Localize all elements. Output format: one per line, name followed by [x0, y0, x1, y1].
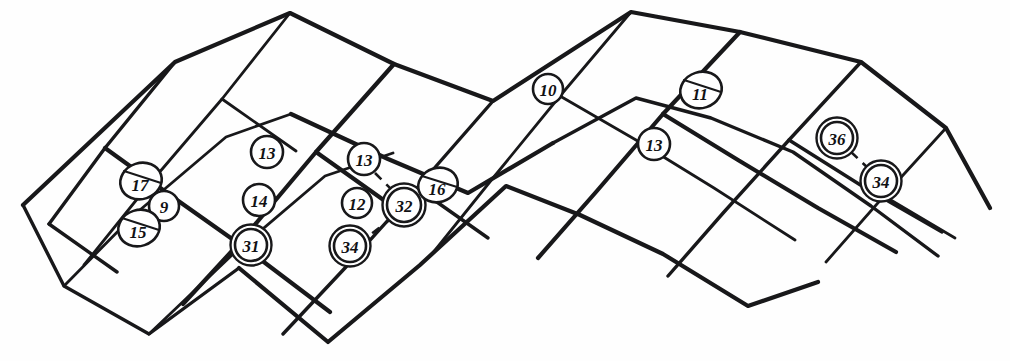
- node-marker-34-15[interactable]: 34: [861, 161, 902, 202]
- mesh-line: [884, 196, 955, 238]
- node-marker-13-3[interactable]: 13: [251, 136, 283, 168]
- node-marker-13-13[interactable]: 13: [638, 128, 670, 160]
- node-label: 14: [251, 192, 268, 211]
- dashed-link-36-34: [851, 152, 868, 168]
- node-label: 31: [242, 237, 260, 256]
- node-label: 32: [395, 197, 414, 216]
- node-label: 9: [160, 198, 169, 217]
- node-label: 17: [132, 176, 151, 195]
- mesh-line: [23, 12, 990, 208]
- node-label: 10: [540, 81, 558, 100]
- mesh-grid-lines: [23, 12, 990, 342]
- node-label: 13: [646, 136, 664, 155]
- node-label: 34: [872, 173, 890, 192]
- node-marker-36-14[interactable]: 36: [817, 118, 858, 159]
- mesh-line: [239, 186, 818, 342]
- node-markers: 1791513143113123432161011133634: [113, 66, 901, 266]
- mesh-line: [560, 96, 795, 240]
- node-label: 12: [349, 195, 367, 214]
- node-label: 16: [429, 180, 447, 199]
- node-marker-12-7[interactable]: 12: [342, 188, 372, 218]
- node-marker-13-6[interactable]: 13: [348, 143, 380, 175]
- node-label: 34: [341, 238, 359, 257]
- node-marker-14-4[interactable]: 14: [243, 184, 275, 216]
- mesh-figure: 1791513143113123432161011133634 Warped q…: [0, 0, 1010, 361]
- node-label: 13: [259, 144, 277, 163]
- node-marker-10-11[interactable]: 10: [533, 74, 563, 104]
- node-label: 15: [130, 223, 148, 242]
- node-label: 36: [828, 130, 847, 149]
- node-label: 13: [356, 151, 374, 170]
- node-label: 11: [692, 85, 708, 104]
- node-marker-31-5[interactable]: 31: [231, 225, 272, 266]
- node-marker-11-12[interactable]: 11: [675, 66, 726, 113]
- node-marker-34-8[interactable]: 34: [330, 226, 371, 267]
- mesh-canvas: 1791513143113123432161011133634: [0, 0, 1010, 361]
